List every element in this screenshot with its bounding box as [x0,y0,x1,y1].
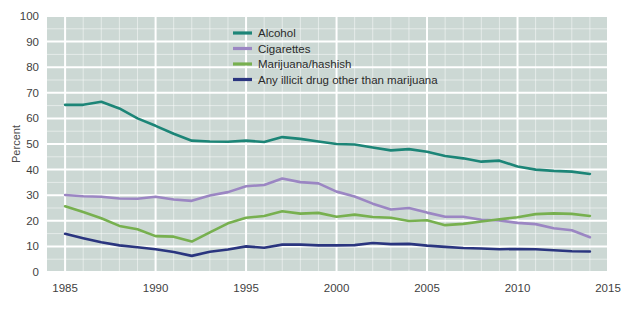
x-axis-tick-label: 2000 [324,282,350,294]
y-axis-tick-label: 100 [20,10,39,22]
y-axis-tick-label: 70 [26,87,39,99]
line-chart: 0102030405060708090100 19851990199520002… [0,0,630,310]
y-axis-tick-label: 90 [26,36,39,48]
y-axis-tick-label: 40 [26,164,39,176]
legend-label-0: Alcohol [258,27,296,39]
y-axis-tick-label: 80 [26,61,39,73]
legend-label-2: Marijuana/hashish [258,58,351,70]
y-axis-tick-label: 60 [26,112,39,124]
legend-label-1: Cigarettes [258,43,311,55]
x-axis-tick-label: 1990 [143,282,169,294]
x-axis-tick-label: 2015 [595,282,621,294]
x-axis-tick-label: 1995 [233,282,259,294]
x-axis-tick-label: 2010 [505,282,531,294]
y-axis-title: Percent [10,125,22,163]
y-axis-tick-label: 10 [26,240,39,252]
chart-container: 0102030405060708090100 19851990199520002… [0,0,630,310]
y-axis-tick-label: 50 [26,138,39,150]
y-axis-tick-label: 20 [26,215,39,227]
x-axis-tick-label: 2005 [414,282,440,294]
y-axis-tick-label: 0 [33,266,39,278]
y-axis-tick-label: 30 [26,189,39,201]
x-axis-tick-label: 1985 [52,282,78,294]
legend-label-3: Any illicit drug other than marijuana [258,74,438,86]
